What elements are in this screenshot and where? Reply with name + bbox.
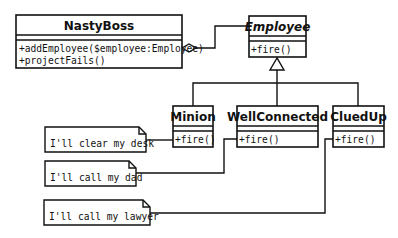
class-method: +fire() <box>335 134 375 145</box>
inheritance-triangle-icon <box>270 58 284 70</box>
note-text: I'll call my dad <box>50 172 142 183</box>
class-employee[interactable]: Employee +fire() <box>245 16 311 57</box>
uml-diagram: NastyBoss +addEmployee($employee:Employe… <box>0 0 398 238</box>
class-name: WellConnected <box>227 110 328 124</box>
note-connector-cluedup <box>150 139 333 213</box>
class-method: +projectFails() <box>19 55 106 66</box>
class-method: +fire() <box>175 134 215 145</box>
class-minion[interactable]: Minion +fire() <box>170 106 216 147</box>
class-name: Employee <box>245 20 311 34</box>
note-clear-desk[interactable]: I'll clear my desk <box>45 127 154 152</box>
class-method: +fire() <box>239 134 279 145</box>
note-text: I'll call my lawyer <box>49 211 159 222</box>
class-name: NastyBoss <box>64 19 135 33</box>
class-name: CluedUp <box>330 110 387 124</box>
class-method: +fire() <box>251 44 291 55</box>
note-text: I'll clear my desk <box>50 138 154 149</box>
class-wellconnected[interactable]: WellConnected +fire() <box>227 106 328 147</box>
class-name: Minion <box>170 110 216 124</box>
note-call-lawyer[interactable]: I'll call my lawyer <box>44 200 159 225</box>
class-method: +addEmployee($employee:Employee) <box>19 43 204 54</box>
class-nastyboss[interactable]: NastyBoss +addEmployee($employee:Employe… <box>16 15 204 68</box>
class-cluedup[interactable]: CluedUp +fire() <box>330 106 387 147</box>
generalization-tree <box>193 58 358 106</box>
note-call-dad[interactable]: I'll call my dad <box>45 161 142 186</box>
